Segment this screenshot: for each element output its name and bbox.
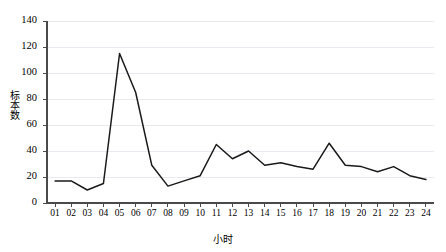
line-chart: 标本数 小时 020406080100120140 01020304050607… <box>0 0 446 252</box>
plot-area <box>0 0 446 252</box>
data-series-line <box>55 54 426 191</box>
gridlines <box>47 21 434 177</box>
x-tick-marks <box>55 203 426 207</box>
